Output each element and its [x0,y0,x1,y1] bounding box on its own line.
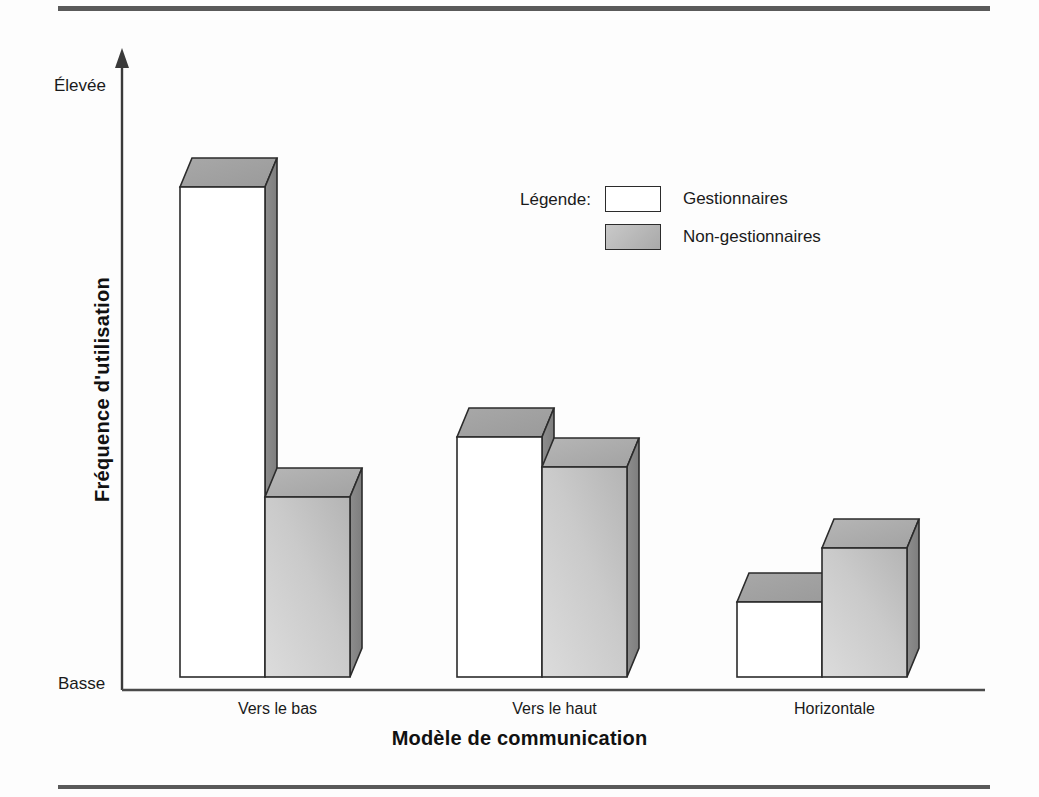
y-tick-label-high: Élevée [54,76,106,96]
legend-rows: Gestionnaires Non-gestionnaires [605,186,821,250]
bar-non-gestionnaires-horizontale [822,519,919,677]
x-axis-title: Modèle de communication [0,727,1039,750]
bar-non-gestionnaires-vers-le-haut [542,438,639,677]
bar-chart-canvas [0,0,1039,797]
chart-legend: Légende: Gestionnaires Non-gestionnaires [520,186,821,250]
y-tick-label-low: Basse [58,674,105,694]
x-category-label-3: Horizontale [737,700,932,718]
legend-item-gestionnaires: Gestionnaires [605,186,821,212]
x-category-label-2: Vers le haut [457,700,652,718]
bar-gestionnaires-horizontale [737,573,834,677]
x-category-label-1: Vers le bas [180,700,375,718]
y-axis [115,48,129,690]
legend-swatch-white [605,186,661,212]
bar-gestionnaires-vers-le-bas [180,158,277,677]
legend-item-non-gestionnaires: Non-gestionnaires [605,224,821,250]
bar-non-gestionnaires-vers-le-bas [265,468,362,677]
legend-swatch-gray [605,224,661,250]
y-axis-title: Fréquence d'utilisation [91,225,114,555]
bar-gestionnaires-vers-le-haut [457,408,554,677]
legend-label-gestionnaires: Gestionnaires [683,189,788,209]
figure-page: Élevée Basse Fréquence d'utilisation Mod… [0,0,1039,797]
legend-title: Légende: [520,186,591,210]
legend-label-non-gestionnaires: Non-gestionnaires [683,227,821,247]
